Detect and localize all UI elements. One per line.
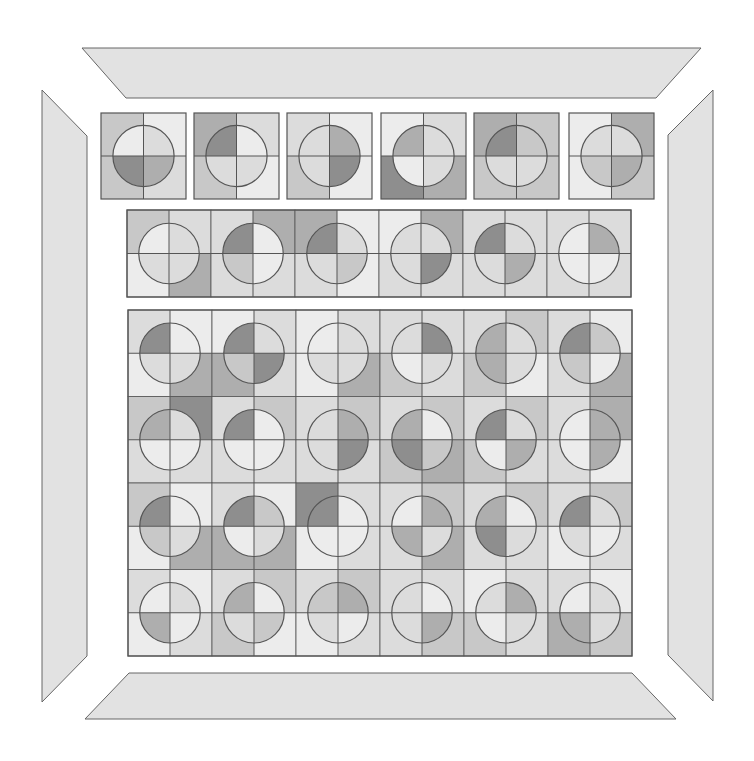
border-piece-top[interactable] [82, 48, 701, 98]
grid-tile-r1-c3[interactable] [296, 310, 380, 397]
grid-tile-r2-c5[interactable] [464, 397, 548, 484]
border-piece-left[interactable] [42, 90, 87, 702]
grid-tile-r4-c2[interactable] [212, 570, 296, 657]
strip-tile-2[interactable] [211, 210, 295, 297]
loose-tile-6[interactable] [569, 113, 654, 199]
loose-tile-3[interactable] [287, 113, 372, 199]
grid-tile-r1-c5[interactable] [464, 310, 548, 397]
strip-tile-5[interactable] [463, 210, 547, 297]
grid-tile-r3-c6[interactable] [548, 483, 632, 570]
loose-tile-2[interactable] [194, 113, 279, 199]
strip-tile-1[interactable] [127, 210, 211, 297]
border-piece-right[interactable] [668, 90, 713, 701]
grid-tile-r1-c2[interactable] [212, 310, 296, 397]
loose-tile-1[interactable] [101, 113, 186, 199]
grid-tile-r3-c5[interactable] [464, 483, 548, 570]
grid-tile-r2-c3[interactable] [296, 397, 380, 484]
grid-tile-r3-c3[interactable] [296, 483, 380, 570]
grid-tile-r2-c1[interactable] [128, 397, 212, 484]
grid-tile-r3-c1[interactable] [128, 483, 212, 570]
grid-tile-r3-c2[interactable] [212, 483, 296, 570]
border-piece-bottom[interactable] [85, 673, 676, 719]
grid-tile-r1-c1[interactable] [128, 310, 212, 397]
puzzle-board [0, 0, 754, 761]
grid-tile-r4-c6[interactable] [548, 570, 632, 657]
strip-tile-4[interactable] [379, 210, 463, 297]
grid-tile-r2-c2[interactable] [212, 397, 296, 484]
grid-tile-r4-c4[interactable] [380, 570, 464, 657]
grid-tile-r4-c5[interactable] [464, 570, 548, 657]
grid-tile-r3-c4[interactable] [380, 483, 464, 570]
strip-tile-6[interactable] [547, 210, 631, 297]
grid-tile-r4-c1[interactable] [128, 570, 212, 657]
grid-tile-r1-c6[interactable] [548, 310, 632, 397]
grid-tile-r2-c6[interactable] [548, 397, 632, 484]
tile-layer [101, 113, 654, 656]
loose-tile-4[interactable] [381, 113, 466, 199]
grid-tile-r2-c4[interactable] [380, 397, 464, 484]
strip-tile-3[interactable] [295, 210, 379, 297]
grid-tile-r4-c3[interactable] [296, 570, 380, 657]
grid-tile-r1-c4[interactable] [380, 310, 464, 397]
loose-tile-5[interactable] [474, 113, 559, 199]
